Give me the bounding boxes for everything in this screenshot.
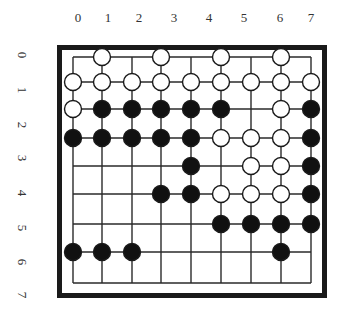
white-stone (183, 74, 200, 91)
white-stone (94, 74, 111, 91)
white-stone (273, 49, 290, 66)
white-stone (273, 186, 290, 203)
black-stone (183, 186, 200, 203)
white-stone (273, 158, 290, 175)
white-stone (153, 74, 170, 91)
black-stone (303, 158, 320, 175)
white-stone (273, 74, 290, 91)
black-stone (243, 216, 260, 233)
white-stone (273, 130, 290, 147)
black-stone (94, 130, 111, 147)
white-stone (243, 74, 260, 91)
white-stone (153, 49, 170, 66)
black-stone (65, 244, 82, 261)
white-stone (213, 49, 230, 66)
black-stone (213, 101, 230, 118)
black-stone (273, 244, 290, 261)
black-stone (94, 101, 111, 118)
white-stone (243, 158, 260, 175)
black-stone (303, 186, 320, 203)
white-stone (65, 74, 82, 91)
black-stone (94, 244, 111, 261)
white-stone (213, 186, 230, 203)
black-stone (183, 130, 200, 147)
black-stone (124, 130, 141, 147)
black-stone (273, 216, 290, 233)
game-board[interactable] (0, 0, 345, 315)
black-stone (303, 101, 320, 118)
white-stone (213, 130, 230, 147)
black-stone (153, 186, 170, 203)
black-stone (303, 216, 320, 233)
white-stone (213, 74, 230, 91)
white-stone (243, 130, 260, 147)
white-stone (303, 74, 320, 91)
white-stone (273, 101, 290, 118)
black-stone (183, 101, 200, 118)
black-stone (303, 130, 320, 147)
white-stone (124, 74, 141, 91)
black-stone (153, 130, 170, 147)
black-stone (213, 216, 230, 233)
white-stone (65, 101, 82, 118)
white-stone (243, 186, 260, 203)
black-stone (124, 244, 141, 261)
black-stone (65, 130, 82, 147)
black-stone (183, 158, 200, 175)
black-stone (153, 101, 170, 118)
white-stone (94, 49, 111, 66)
black-stone (124, 101, 141, 118)
